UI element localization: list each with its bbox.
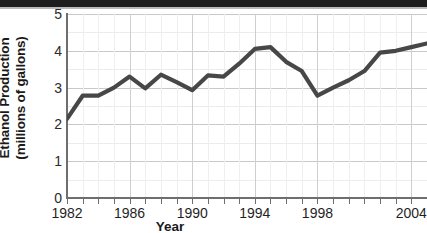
- x-axis-tick-mark: [177, 199, 178, 204]
- y-axis-tick-label: 3: [44, 81, 62, 95]
- x-axis-tick-mark: [411, 199, 412, 204]
- data-polyline: [67, 43, 427, 118]
- x-axis-tick-mark: [161, 199, 162, 204]
- y-axis-tick-labels: 012345: [44, 8, 62, 200]
- y-axis-title-line-2: (millions of gallons): [13, 5, 29, 191]
- x-axis-tick-mark: [380, 199, 381, 204]
- y-axis-tick-label: 4: [44, 44, 62, 58]
- x-axis-tick-mark: [114, 199, 115, 204]
- x-axis-tick-mark: [67, 199, 68, 204]
- x-axis-title: Year: [0, 219, 340, 233]
- x-axis-tick-mark: [364, 199, 365, 204]
- x-axis-tick-mark: [270, 199, 271, 204]
- y-axis-tick-label: 2: [44, 117, 62, 131]
- x-axis-tick-mark: [349, 199, 350, 204]
- x-axis-tick-mark: [396, 199, 397, 204]
- x-axis-tick-mark: [255, 199, 256, 204]
- x-axis-tick-mark: [130, 199, 131, 204]
- y-axis-title: Ethanol Production (millions of gallons): [0, 5, 37, 191]
- ethanol-production-line-series: [67, 14, 427, 198]
- x-axis-tick-mark: [286, 199, 287, 204]
- x-axis-tick-mark: [333, 199, 334, 204]
- line-chart-figure: Ethanol Production (millions of gallons)…: [0, 0, 427, 233]
- x-axis-tick-mark: [208, 199, 209, 204]
- x-axis-tick-mark: [192, 199, 193, 204]
- x-axis-tick-mark: [239, 199, 240, 204]
- y-axis-tick-label: 1: [44, 154, 62, 168]
- y-axis-title-line-1: Ethanol Production: [0, 5, 13, 191]
- x-axis-tick-mark: [83, 199, 84, 204]
- x-axis-tick-mark: [302, 199, 303, 204]
- y-axis-tick-label: 0: [44, 191, 62, 205]
- y-axis-tick-label: 5: [44, 7, 62, 21]
- x-axis-tick-mark: [317, 199, 318, 204]
- x-axis-tick-mark: [145, 199, 146, 204]
- x-axis-tick-label: 2004: [396, 205, 427, 221]
- x-axis-tick-mark: [98, 199, 99, 204]
- x-axis-tick-mark: [224, 199, 225, 204]
